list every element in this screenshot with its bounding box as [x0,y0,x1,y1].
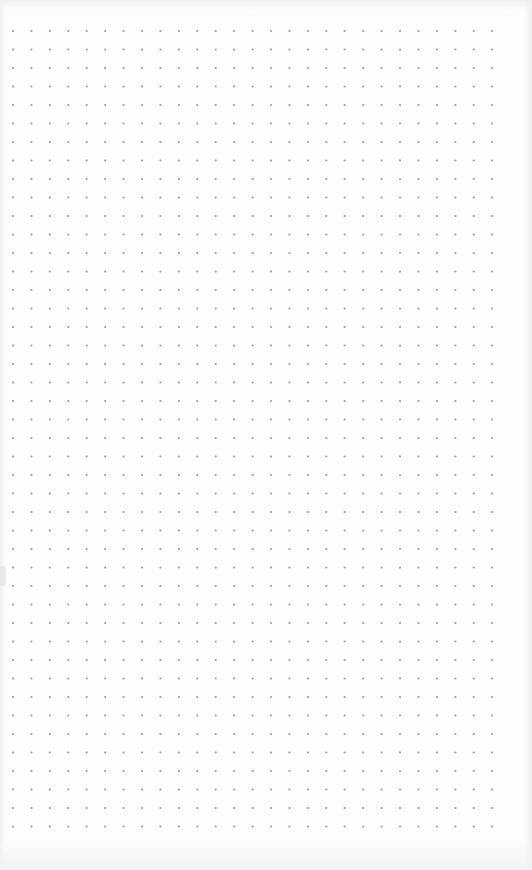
grid-dot [67,289,69,291]
grid-dot [122,714,124,716]
grid-dot [12,770,14,772]
grid-dot [362,437,364,439]
grid-dot [454,511,456,513]
grid-dot [233,548,235,550]
grid-dot [178,511,180,513]
grid-dot [417,492,419,494]
grid-dot [362,640,364,642]
grid-dot [104,511,106,513]
grid-dot [30,48,32,50]
grid-dot [122,122,124,124]
grid-dot [30,640,32,642]
grid-dot [215,603,217,605]
grid-dot [399,733,401,735]
grid-dot [12,437,14,439]
grid-dot [86,85,88,87]
grid-dot [288,585,290,587]
grid-dot [122,511,124,513]
grid-dot [381,159,383,161]
grid-dot [30,363,32,365]
grid-dot [233,603,235,605]
grid-dot [399,659,401,661]
grid-dot [307,252,309,254]
grid-dot [344,492,346,494]
grid-dot [196,270,198,272]
grid-dot [86,825,88,827]
grid-dot [122,344,124,346]
grid-dot [325,344,327,346]
grid-dot [473,529,475,531]
grid-dot [381,733,383,735]
grid-dot [381,548,383,550]
grid-dot [307,807,309,809]
grid-dot [362,529,364,531]
grid-dot [215,159,217,161]
grid-dot [12,418,14,420]
grid-dot [251,400,253,402]
grid-dot [362,363,364,365]
grid-dot [307,381,309,383]
grid-dot [233,344,235,346]
grid-dot [67,751,69,753]
grid-dot [417,603,419,605]
grid-dot [473,640,475,642]
grid-dot [12,233,14,235]
grid-dot [178,696,180,698]
grid-dot [86,474,88,476]
grid-dot [491,751,493,753]
grid-dot [325,326,327,328]
grid-dot [473,159,475,161]
grid-dot [122,67,124,69]
grid-dot [454,307,456,309]
grid-dot [251,252,253,254]
grid-dot [325,474,327,476]
grid-dot [178,381,180,383]
grid-dot [67,307,69,309]
grid-dot [233,104,235,106]
grid-dot [67,603,69,605]
grid-dot [399,455,401,457]
grid-dot [49,751,51,753]
grid-dot [381,418,383,420]
grid-dot [86,677,88,679]
grid-dot [325,492,327,494]
grid-dot [325,603,327,605]
grid-dot [30,289,32,291]
grid-dot [251,825,253,827]
grid-dot [67,640,69,642]
grid-dot [454,492,456,494]
grid-dot [436,141,438,143]
grid-dot [104,159,106,161]
grid-dot [30,548,32,550]
grid-dot [473,677,475,679]
grid-dot [270,455,272,457]
grid-dot [344,659,346,661]
grid-dot [454,196,456,198]
grid-dot [454,122,456,124]
grid-dot [454,67,456,69]
grid-dot [325,381,327,383]
grid-dot [491,344,493,346]
grid-dot [122,196,124,198]
grid-dot [417,474,419,476]
grid-dot [288,159,290,161]
grid-dot [12,85,14,87]
grid-dot [122,363,124,365]
grid-dot [49,215,51,217]
grid-dot [141,807,143,809]
grid-dot [178,141,180,143]
grid-dot [159,474,161,476]
grid-dot [122,807,124,809]
grid-dot [49,529,51,531]
grid-dot [417,122,419,124]
grid-dot [417,85,419,87]
grid-dot [233,326,235,328]
grid-dot [67,196,69,198]
grid-dot [325,363,327,365]
grid-dot [436,196,438,198]
grid-dot [381,825,383,827]
grid-dot [104,585,106,587]
grid-dot [178,400,180,402]
grid-dot [233,529,235,531]
grid-dot [141,381,143,383]
